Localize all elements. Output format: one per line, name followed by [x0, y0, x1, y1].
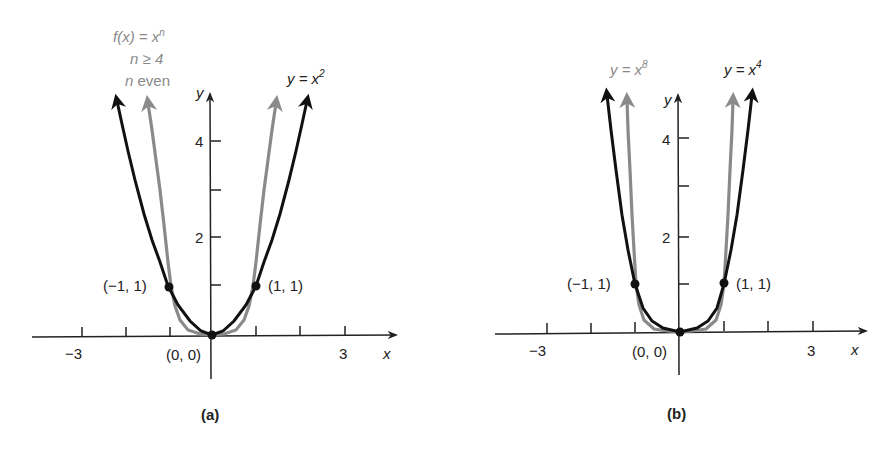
- y-ticks: [679, 138, 689, 284]
- black-curve-label: y = x4: [723, 59, 762, 78]
- point-neg1-1: [165, 283, 174, 292]
- point-neg1-1: [631, 280, 640, 289]
- panel-b: −3 3 x 2 4 y (−1, 1) (0, 0) (1, 1) y = x…: [495, 59, 866, 422]
- x-tick-label-neg3: −3: [529, 342, 546, 359]
- point-origin: [676, 328, 685, 337]
- panel-caption-a: (a): [201, 406, 219, 423]
- y-ticks: [211, 141, 221, 285]
- point-label-origin: (0, 0): [632, 343, 667, 360]
- point-label-neg1-1: (−1, 1): [567, 275, 611, 292]
- x-tick-label-3: 3: [339, 345, 347, 362]
- x-axis-label: x: [382, 345, 391, 362]
- x-tick-label-neg3: −3: [65, 345, 82, 362]
- y-tick-label-2: 2: [195, 229, 203, 246]
- gray-curve-label-line2: n ≥ 4: [130, 50, 163, 67]
- point-label-origin: (0, 0): [166, 346, 201, 363]
- y-axis-label: y: [663, 91, 673, 108]
- curve-x4-gray: [148, 103, 276, 335]
- point-1-1: [252, 282, 261, 291]
- panel-caption-b: (b): [667, 405, 686, 422]
- y-axis-label: y: [195, 84, 205, 101]
- curve-x2-black: [117, 101, 307, 335]
- x-tick-label-3: 3: [807, 342, 815, 359]
- y-tick-label-4: 4: [195, 133, 203, 150]
- gray-curve-label-line3: n even: [125, 72, 170, 89]
- figure: −3 3 x 2 4 y (−1, 1) (0, 0) (1, 1) f(x) …: [0, 0, 891, 454]
- y-tick-label-2: 2: [662, 229, 670, 246]
- curve-x8-gray: [627, 100, 733, 332]
- y-tick-label-4: 4: [662, 131, 670, 148]
- point-label-neg1-1: (−1, 1): [103, 277, 147, 294]
- point-1-1: [720, 279, 729, 288]
- point-origin: [208, 331, 217, 340]
- point-label-1-1: (1, 1): [736, 275, 771, 292]
- panel-a: −3 3 x 2 4 y (−1, 1) (0, 0) (1, 1) f(x) …: [32, 27, 396, 423]
- x-axis-label: x: [850, 341, 859, 358]
- gray-curve-label: y = x8: [609, 59, 648, 78]
- point-label-1-1: (1, 1): [268, 277, 303, 294]
- black-curve-label: y = x2: [286, 68, 325, 87]
- gray-curve-label-line1: f(x) = xn: [113, 27, 165, 45]
